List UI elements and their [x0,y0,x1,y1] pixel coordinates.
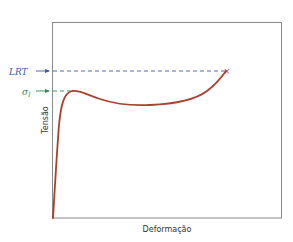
stress-strain-chart: LRT σl × Deformação Tensão [0,0,293,242]
plot-frame [53,23,282,219]
lrt-arrow-icon [36,69,50,73]
stress-strain-curve [53,71,226,218]
sigma-label: σl [22,87,30,99]
fracture-marker-icon: × [224,67,231,76]
lrt-label: LRT [8,67,29,77]
y-axis-label: Tensão [41,106,50,135]
sigma-arrow-icon [36,89,50,93]
x-axis-label: Deformação [143,225,192,234]
